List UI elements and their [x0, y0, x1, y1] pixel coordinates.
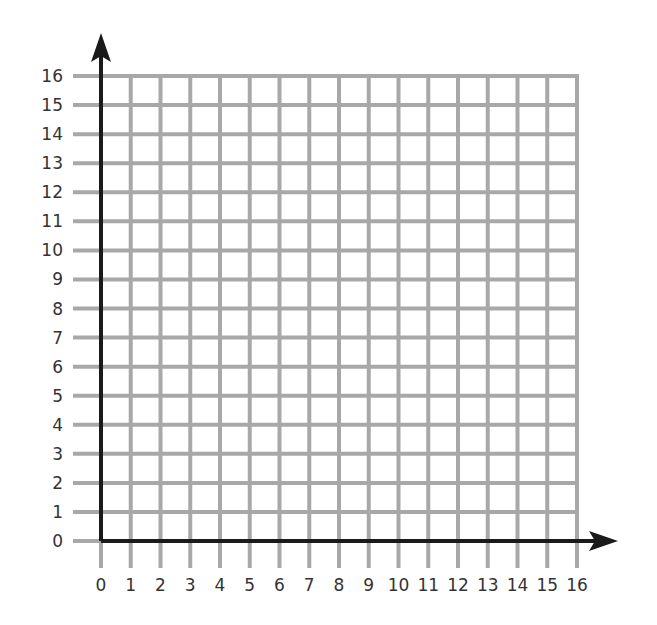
y-tick-label: 1 — [52, 502, 63, 522]
x-tick-label: 6 — [274, 575, 285, 595]
x-tick-label: 15 — [536, 575, 558, 595]
axes — [91, 33, 618, 551]
x-tick-label: 2 — [155, 575, 166, 595]
x-tick-label: 10 — [388, 575, 410, 595]
x-tick-label: 1 — [125, 575, 136, 595]
y-tick-label: 14 — [41, 124, 63, 144]
y-tick-label: 16 — [41, 66, 63, 86]
x-tick-label: 8 — [334, 575, 345, 595]
x-axis-labels: 012345678910111213141516 — [96, 575, 588, 595]
x-tick-label: 16 — [566, 575, 588, 595]
x-tick-label: 11 — [417, 575, 439, 595]
y-tick-label: 15 — [41, 95, 63, 115]
y-tick-label: 3 — [52, 444, 63, 464]
y-tick-label: 12 — [41, 182, 63, 202]
y-axis-labels: 012345678910111213141516 — [41, 66, 63, 551]
coordinate-grid: 012345678910111213141516 012345678910111… — [0, 0, 657, 625]
grid-lines — [73, 74, 579, 568]
x-tick-label: 3 — [185, 575, 196, 595]
x-tick-label: 13 — [477, 575, 499, 595]
y-tick-label: 9 — [52, 269, 63, 289]
y-tick-label: 8 — [52, 299, 63, 319]
y-tick-label: 7 — [52, 328, 63, 348]
y-tick-label: 6 — [52, 357, 63, 377]
y-tick-label: 0 — [52, 531, 63, 551]
x-tick-label: 5 — [244, 575, 255, 595]
x-tick-label: 0 — [96, 575, 107, 595]
y-tick-label: 10 — [41, 240, 63, 260]
x-tick-label: 12 — [447, 575, 469, 595]
y-tick-label: 11 — [41, 211, 63, 231]
y-tick-label: 13 — [41, 153, 63, 173]
x-tick-label: 4 — [215, 575, 226, 595]
y-tick-label: 4 — [52, 415, 63, 435]
x-tick-label: 7 — [304, 575, 315, 595]
y-tick-label: 5 — [52, 386, 63, 406]
x-tick-label: 9 — [363, 575, 374, 595]
x-tick-label: 14 — [507, 575, 529, 595]
y-tick-label: 2 — [52, 473, 63, 493]
